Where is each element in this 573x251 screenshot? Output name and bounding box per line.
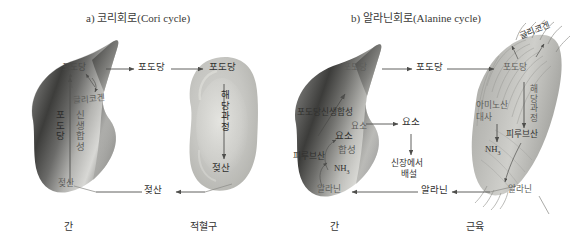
- muscle-amino-acid-metabolism-line-2: 대사: [476, 113, 492, 122]
- liver-b-ammonia-subscript: 3: [347, 169, 350, 175]
- panel-b-liver-organ-label: 간: [330, 222, 339, 232]
- muscle-amino-acid-metabolism-line-1: 아미노산: [476, 101, 508, 110]
- liver-a-lactate-label: 젖산: [58, 179, 74, 188]
- muscle-pyruvate-label: 피루브산: [506, 130, 538, 139]
- muscle-alanine-label: 알라닌: [508, 185, 532, 194]
- liver-b-ammonia-label: NH3: [334, 164, 350, 175]
- liver-a-glycogen-label: 글리코겐: [73, 94, 106, 105]
- panel-a-liver-organ-label: 간: [64, 222, 73, 232]
- rbc-lactate-label: 젖산: [212, 164, 230, 174]
- liver-b-urea-synthesis-line1: 요소: [335, 132, 353, 142]
- panel-b-muscle-organ-label: 근육: [466, 222, 484, 232]
- panel-b-transport-glucose: 포도당: [416, 63, 443, 73]
- liver-a-gluconeogenesis-col1: 포도당: [53, 110, 63, 142]
- liver-b-alanine-label: 알라닌: [317, 185, 341, 194]
- panel-b-title: b) 알라닌회로(Alanine cycle): [351, 13, 481, 24]
- muscle-ammonia-symbol: NH: [485, 144, 498, 154]
- kidney-excretion-line-2: 배설: [401, 170, 417, 179]
- panel-b-transport-alanine: 알라닌: [421, 186, 448, 196]
- muscle-ammonia-subscript: 3: [498, 150, 501, 156]
- liver-b-gluconeogenesis-label: 포도당신생합성: [297, 108, 353, 117]
- muscle-glucose-label: 포도당: [503, 63, 527, 72]
- muscle-ammonia-label: NH3: [485, 145, 501, 156]
- liver-b-urea-inner-label: 요소: [351, 122, 367, 131]
- rbc-glucose-label: 포도당: [209, 63, 236, 73]
- liver-a-gluconeogenesis-col2: 신생합성: [73, 110, 83, 152]
- liver-b-ammonia-symbol: NH: [334, 163, 347, 173]
- panel-b-urea-transport: 요소: [402, 118, 420, 128]
- panel-a-title: a) 코리회로(Cori cycle): [86, 13, 190, 24]
- panel-a-transport-lactate: 젖산: [144, 186, 162, 196]
- panel-a-rbc-organ-label: 적혈구: [190, 222, 217, 232]
- liver-b-pyruvate-label: 피루브산: [293, 152, 325, 161]
- liver-b-glucose-label: 포도당: [343, 63, 367, 72]
- liver-a-glucose-label: 포도당: [62, 63, 86, 72]
- muscle-glycolysis-label: 해당과정: [529, 84, 538, 122]
- kidney-excretion-line-1: 신장에서: [391, 159, 423, 168]
- liver-b-urea-synthesis-line2: 합성: [338, 146, 356, 156]
- figure-canvas: a) 코리회로(Cori cycle) 포도당 글리코겐 포도당 신생합성 젖산…: [0, 0, 573, 251]
- diagram-graphics: [0, 0, 573, 251]
- rbc-glycolysis-label: 해당과정: [218, 90, 228, 132]
- panel-a-transport-glucose: 포도당: [138, 63, 165, 73]
